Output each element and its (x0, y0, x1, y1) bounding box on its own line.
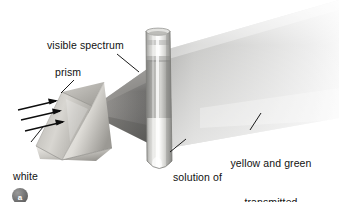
transmitted-light-beam (158, 0, 339, 150)
label-solution-of-chlorophyll: solution of chlorophyll (173, 145, 224, 202)
prism-shape (36, 82, 112, 161)
label-visible-spectrum: visible spectrum (47, 39, 124, 52)
label-solution-line1: solution of (173, 171, 224, 184)
label-white-light: white light (13, 144, 38, 202)
figure-illustration: a visible spectrum prism white light sol… (0, 0, 339, 202)
label-prism: prism (55, 66, 81, 79)
label-transmitted-line2: transmitted (219, 196, 323, 202)
leader-visible-spectrum (117, 54, 139, 72)
label-white-light-line1: white (13, 170, 38, 183)
label-transmitted-line1: yellow and green (219, 157, 323, 170)
label-yellow-and-green-transmitted: yellow and green transmitted (219, 131, 323, 202)
